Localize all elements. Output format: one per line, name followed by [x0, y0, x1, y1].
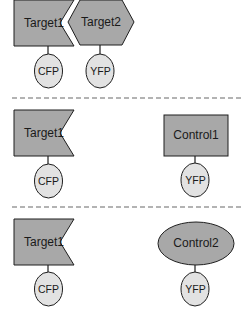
cfp-tag-label: CFP — [34, 65, 63, 77]
yfp-tag-label: YFP — [181, 174, 210, 186]
yfp-tag-label: YFP — [181, 283, 210, 295]
control2-label: Control2 — [158, 236, 234, 250]
yfp-tag-label: YFP — [86, 65, 115, 77]
diagram-canvas — [0, 0, 241, 314]
panel-1 — [14, 0, 134, 88]
target1-label: Target1 — [15, 16, 73, 30]
target1-label: Target1 — [15, 235, 73, 249]
cfp-tag-label: CFP — [34, 175, 63, 187]
target2-label: Target2 — [74, 15, 128, 29]
cfp-tag-label: CFP — [34, 283, 63, 295]
control1-label: Control1 — [164, 128, 228, 142]
target1-label: Target1 — [15, 126, 73, 140]
